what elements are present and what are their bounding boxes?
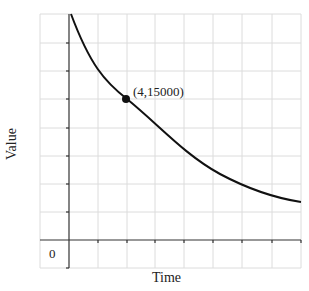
decay-curve xyxy=(71,14,301,202)
axes xyxy=(40,14,301,268)
y-axis-label: Value xyxy=(4,128,20,160)
data-point-marker xyxy=(122,95,130,103)
origin-label: 0 xyxy=(49,246,56,262)
chart-canvas xyxy=(0,0,309,291)
grid xyxy=(40,14,301,268)
point-annotation: (4,15000) xyxy=(133,84,184,100)
x-axis-label: Time xyxy=(152,270,181,286)
